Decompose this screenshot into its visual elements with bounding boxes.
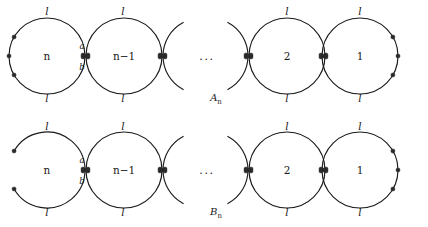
node-label-a: a [79,42,84,51]
ellipsis: ... [199,51,214,62]
arc-length-label-top: l [358,121,361,132]
node-dot [158,167,162,171]
node-dot [319,53,323,57]
circle-center-label: n [44,165,51,176]
arc-length-label-bottom: l [285,207,288,218]
arc-length-label-bottom: l [285,93,288,104]
node-dot [391,187,395,191]
node-dot [249,53,253,57]
arc-length-label-bottom: l [358,93,361,104]
figure-diagram: l l l l l l l l n n−1 2 1 a b ... An l l… [0,0,428,227]
arc-length-label-top: l [45,6,48,17]
node-dot [396,168,400,172]
circle-center-label: 2 [284,51,291,62]
node-dot [324,167,328,171]
node-dot [81,167,85,171]
arc-length-label-top: l [358,6,361,17]
node-dot [396,54,400,58]
node-dot [81,53,85,57]
node-dot [12,187,16,191]
node-dot [391,149,395,153]
node-label-b: b [79,177,84,186]
row-label-B-subscript: n [217,212,222,220]
circle-arcs-group [9,18,398,208]
node-dot [158,53,162,57]
circle-center-label: 1 [357,165,364,176]
node-dot [12,149,16,153]
arc-length-label-top: l [121,6,124,17]
node-dot [249,167,253,171]
node-dot [319,167,323,171]
row-label-A-subscript: n [217,98,222,106]
node-dot [86,53,90,57]
node-dot [12,35,16,39]
arc-length-label-bottom: l [121,207,124,218]
arc-length-label-bottom: l [45,93,48,104]
circle-center-label: n−1 [113,165,135,176]
row-label-B: Bn [210,207,222,220]
circle-center-label: n [44,51,51,62]
arc-length-label-top: l [285,6,288,17]
node-dot [86,167,90,171]
arc-length-label-top: l [285,121,288,132]
node-dot [391,73,395,77]
node-dot [163,53,167,57]
node-dot [391,35,395,39]
node-dot [244,53,248,57]
node-dot [7,54,11,58]
circle-center-label: 2 [284,165,291,176]
arc-length-label-bottom: l [121,93,124,104]
circle-center-label: n−1 [113,51,135,62]
node-label-b: b [79,63,84,72]
row-label-A: An [210,93,222,106]
diagram-canvas [0,0,428,227]
ellipsis: ... [199,165,214,176]
node-dot [163,167,167,171]
node-dot [324,53,328,57]
arc-length-label-bottom: l [358,207,361,218]
arc-length-label-top: l [121,121,124,132]
node-label-a: a [79,156,84,165]
arc-length-label-top: l [45,121,48,132]
arc-length-label-bottom: l [45,207,48,218]
circle-center-label: 1 [357,51,364,62]
node-dot [244,167,248,171]
node-dot [12,73,16,77]
